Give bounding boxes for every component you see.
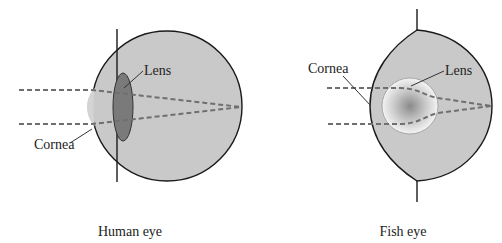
fish-cornea-leader	[343, 76, 371, 106]
fish-lens-label: Lens	[445, 63, 472, 78]
human-eye-caption: Human eye	[98, 224, 162, 239]
human-cornea-label: Cornea	[34, 137, 75, 152]
fish-cornea-label: Cornea	[308, 61, 349, 76]
human-eye-figure: Lens Cornea Human eye	[19, 29, 242, 239]
fish-eye-caption: Fish eye	[379, 224, 426, 239]
fish-lens	[382, 78, 438, 134]
eye-comparison-diagram: Lens Cornea Human eye Cornea Lens Fish e…	[0, 0, 502, 243]
fish-eye-figure: Cornea Lens Fish eye	[308, 9, 492, 239]
human-lens-label: Lens	[144, 63, 171, 78]
